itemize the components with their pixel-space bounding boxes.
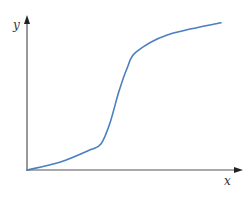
series-curve <box>27 23 221 170</box>
chart: y x <box>0 0 251 197</box>
y-axis: y <box>12 15 30 171</box>
y-axis-arrow-icon <box>24 15 30 24</box>
x-axis-label: x <box>224 174 231 188</box>
y-axis-label: y <box>12 18 20 32</box>
x-axis: x <box>27 167 243 188</box>
x-axis-arrow-icon <box>234 167 243 173</box>
